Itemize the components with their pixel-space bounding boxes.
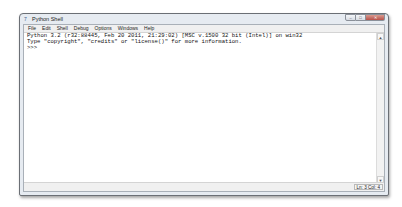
minimize-button[interactable]: – bbox=[345, 14, 356, 21]
scroll-up-arrow-icon[interactable]: ▲ bbox=[377, 33, 384, 40]
menu-help[interactable]: Help bbox=[141, 25, 157, 32]
maximize-button[interactable]: □ bbox=[356, 14, 366, 21]
menu-debug[interactable]: Debug bbox=[71, 25, 92, 32]
python-shell-window: 7 Python Shell – □ ✕ File Edit Shell Deb… bbox=[19, 13, 389, 196]
shell-text-area[interactable]: Python 3.2 (r32:88445, Feb 20 2011, 21:2… bbox=[24, 33, 376, 183]
menu-edit[interactable]: Edit bbox=[39, 25, 54, 32]
menu-options[interactable]: Options bbox=[92, 25, 115, 32]
vertical-scrollbar[interactable]: ▲ ▼ bbox=[376, 33, 384, 183]
shell-prompt: >>> bbox=[27, 45, 376, 51]
title-bar[interactable]: 7 Python Shell – □ ✕ bbox=[20, 14, 388, 24]
menu-shell[interactable]: Shell bbox=[54, 25, 71, 32]
menu-bar: File Edit Shell Debug Options Windows He… bbox=[24, 25, 384, 33]
menu-file[interactable]: File bbox=[24, 25, 39, 32]
close-button[interactable]: ✕ bbox=[366, 14, 385, 21]
window-title: Python Shell bbox=[32, 14, 63, 24]
client-area: File Edit Shell Debug Options Windows He… bbox=[23, 24, 385, 192]
idle-icon: 7 bbox=[24, 17, 30, 22]
status-bar: Ln: 3 Col: 4 bbox=[24, 182, 384, 191]
window-controls: – □ ✕ bbox=[345, 14, 385, 21]
cursor-position: Ln: 3 Col: 4 bbox=[354, 184, 384, 190]
menu-windows[interactable]: Windows bbox=[115, 25, 141, 32]
